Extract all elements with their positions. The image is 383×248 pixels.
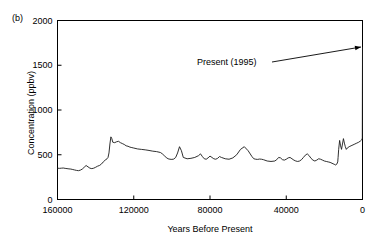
x-tick-label: 160000 <box>28 205 88 215</box>
x-tick-label: 0 <box>333 205 383 215</box>
y-tick-label: 1000 <box>17 105 53 115</box>
methane-concentration-chart: (b) Concentration (ppbv) Years Before Pr… <box>0 0 383 248</box>
x-axis-title: Years Before Present <box>57 224 363 235</box>
y-tick-label: 2000 <box>17 16 53 26</box>
x-tick-label: 40000 <box>256 205 316 215</box>
y-tick-label: 1500 <box>17 60 53 70</box>
axis-frame <box>58 21 363 200</box>
x-tick-label: 80000 <box>180 205 240 215</box>
tick-marks <box>58 65 287 199</box>
present-annotation-label: Present (1995) <box>197 57 257 68</box>
x-tick-label: 120000 <box>104 205 164 215</box>
y-tick-label: 0 <box>17 195 53 205</box>
y-tick-label: 500 <box>17 150 53 160</box>
annotation-arrow <box>272 46 361 62</box>
